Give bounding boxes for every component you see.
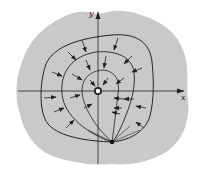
y-axis-label: y <box>89 9 94 18</box>
sink-point <box>110 140 114 144</box>
x-axis-label: x <box>181 93 186 102</box>
flow-field-diagram <box>0 0 200 174</box>
